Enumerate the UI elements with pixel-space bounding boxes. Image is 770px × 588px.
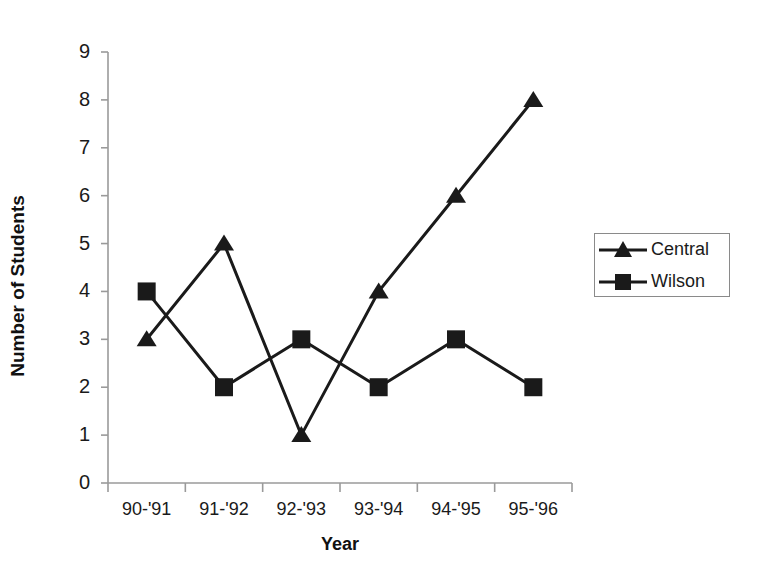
y-tick-label: 7 [50, 137, 90, 157]
data-point-wilson [292, 330, 310, 348]
legend-entry-wilson: Wilson [595, 266, 729, 298]
data-point-central [291, 426, 311, 442]
line-chart: Number of Students Year 0123456789 90-'9… [0, 0, 770, 588]
y-tick-label: 1 [50, 424, 90, 444]
y-tick-label: 0 [50, 472, 90, 492]
data-point-central [214, 235, 234, 251]
y-tick-label: 2 [50, 376, 90, 396]
x-tick-label: 95-'96 [478, 499, 588, 519]
data-point-wilson [215, 378, 233, 396]
square-marker-icon [595, 266, 651, 298]
x-axis-title: Year [108, 534, 572, 555]
triangle-marker-icon [595, 234, 651, 266]
series-line-wilson [147, 291, 534, 387]
y-tick-label: 5 [50, 233, 90, 253]
data-point-central [523, 91, 543, 107]
legend-label-wilson: Wilson [651, 271, 705, 292]
legend-label-central: Central [651, 239, 709, 260]
y-tick-label: 8 [50, 89, 90, 109]
data-point-wilson [370, 378, 388, 396]
y-tick-label: 3 [50, 328, 90, 348]
data-point-wilson [524, 378, 542, 396]
data-point-wilson [447, 330, 465, 348]
series-line-central [147, 100, 534, 435]
legend-entry-central: Central [595, 234, 729, 266]
y-tick-label: 4 [50, 280, 90, 300]
y-tick-label: 9 [50, 41, 90, 61]
y-axis-title: Number of Students [7, 156, 29, 416]
chart-legend: Central Wilson [594, 233, 730, 297]
data-point-wilson [138, 282, 156, 300]
y-tick-label: 6 [50, 185, 90, 205]
